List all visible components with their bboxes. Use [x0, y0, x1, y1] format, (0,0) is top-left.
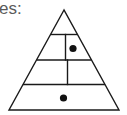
dot-row-4 [60, 94, 67, 101]
dot-row-2-right [69, 45, 76, 52]
pyramid-diagram [0, 0, 127, 115]
